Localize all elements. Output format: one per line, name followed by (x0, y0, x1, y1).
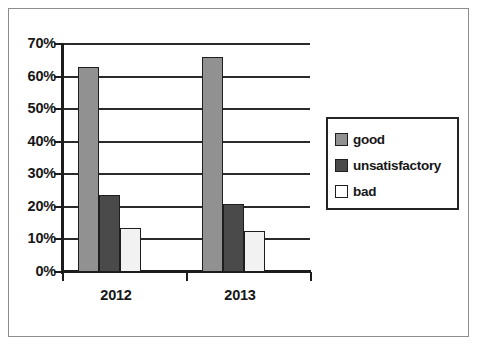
chart-legend: good unsatisfactory bad (326, 117, 459, 210)
legend-item-bad[interactable]: bad (335, 178, 457, 204)
legend-label-unsatisfactory: unsatisfactory (353, 158, 441, 173)
y-axis-tick-label: 30% (4, 166, 56, 181)
bar-unsatisfactory-2013 (223, 204, 244, 272)
y-axis-tick-label: 50% (4, 101, 56, 116)
bar-good-2013 (202, 57, 223, 272)
y-axis-tick-label: 20% (4, 199, 56, 214)
legend-swatch-bad-icon (335, 185, 348, 198)
y-axis-labels: 70%60%50%40%30%20%10%0% (0, 0, 56, 350)
x-axis-label-2012: 2012 (81, 287, 151, 303)
chart-page: 70%60%50%40%30%20%10%0% 20122013 good un… (0, 0, 481, 350)
x-axis-tick (62, 272, 64, 281)
bar-bad-2012 (120, 228, 141, 272)
y-axis-tick-label: 0% (4, 264, 56, 279)
legend-item-unsatisfactory[interactable]: unsatisfactory (335, 152, 457, 178)
x-axis-tick (186, 272, 188, 281)
bar-unsatisfactory-2012 (99, 195, 120, 272)
legend-label-bad: bad (353, 184, 376, 199)
x-axis-tick (310, 272, 312, 281)
bars-layer (62, 44, 310, 272)
legend-swatch-good-icon (335, 133, 348, 146)
y-axis-tick-label: 60% (4, 69, 56, 84)
legend-item-good[interactable]: good (335, 126, 457, 152)
y-axis-tick-label: 10% (4, 231, 56, 246)
legend-swatch-unsatisfactory-icon (335, 159, 348, 172)
bar-bad-2013 (244, 231, 265, 272)
y-axis-tick-label: 40% (4, 134, 56, 149)
y-axis-tick-label: 70% (4, 36, 56, 51)
legend-label-good: good (353, 132, 385, 147)
bar-good-2012 (78, 67, 99, 272)
bar-chart: 70%60%50%40%30%20%10%0% 20122013 good un… (0, 0, 481, 350)
x-axis-label-2013: 2013 (205, 287, 275, 303)
